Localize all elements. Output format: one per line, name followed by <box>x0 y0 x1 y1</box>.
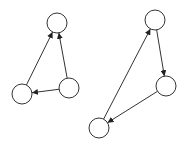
edge-L-bottom-right-to-L-top <box>59 33 67 78</box>
node-L-top <box>47 13 67 33</box>
node-R-middle-right <box>156 76 176 96</box>
node-L-bottom-left <box>12 84 32 104</box>
edge-R-bottom-left-to-R-top <box>104 29 151 119</box>
node-L-bottom-right <box>59 78 79 98</box>
edge-R-top-to-R-middle-right <box>157 30 165 76</box>
node-R-top <box>145 10 165 30</box>
node-R-bottom-left <box>89 118 109 138</box>
edge-L-bottom-left-to-L-top <box>26 32 52 85</box>
diagram-canvas <box>0 0 187 145</box>
edge-L-bottom-right-to-L-bottom-left <box>32 89 59 92</box>
edge-R-middle-right-to-R-bottom-left <box>107 91 157 122</box>
